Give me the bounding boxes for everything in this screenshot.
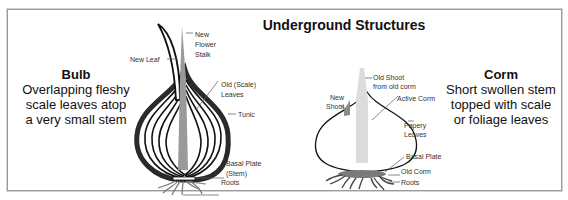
label-old-shoot-1: Old Shoot (373, 74, 404, 81)
corm-old-shoot (356, 68, 368, 163)
label-basal-plate: Basal Plate (406, 153, 442, 160)
label-new-shoot-1: New (330, 94, 345, 101)
label-old-corm: Old Corm (401, 168, 431, 175)
label-new-leaf: New Leaf (130, 56, 160, 63)
label-old-scale-leaves-1: Old (Scale) (221, 81, 256, 89)
label-roots: Roots (221, 179, 240, 186)
label-papery-leaves-2: Leaves (404, 131, 427, 138)
label-basal-plate-1: Basal Plate (226, 160, 262, 167)
label-old-scale-leaves-2: Leaves (221, 91, 244, 98)
bulb-roots (158, 181, 206, 195)
label-active-corm: Active Corm (397, 95, 435, 102)
bulb-basal-plate (173, 177, 195, 180)
label-new-shoot-2: Shoot (326, 103, 344, 110)
label-basal-plate-2: (Stem) (226, 170, 247, 178)
bulb-illustration (137, 24, 236, 195)
label-new-flower-stalk-3: Stalk (195, 51, 211, 58)
diagram-canvas: New Flower Stalk New Leaf Old (Scale) Le… (0, 0, 568, 200)
label-corm-roots: Roots (401, 179, 420, 186)
label-tunic: Tunic (238, 111, 255, 118)
label-papery-leaves-1: Papery (404, 122, 427, 130)
label-new-flower-stalk-1: New (195, 31, 210, 38)
label-new-flower-stalk-2: Flower (195, 41, 217, 48)
label-old-shoot-2: from old corm (373, 83, 416, 90)
